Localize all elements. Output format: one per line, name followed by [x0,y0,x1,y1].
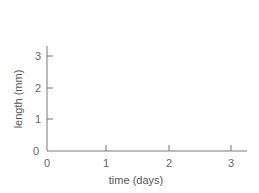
y-tick-label: 0 [33,145,39,157]
y-axis-title: length (mm) [12,70,24,129]
x-axis-title: time (days) [109,174,163,186]
y-tick-label: 2 [35,82,41,94]
x-axis [47,145,247,151]
chart: 3 2 1 0 0 1 2 3 time (days) length (mm) [0,0,259,193]
x-tick-label: 1 [103,157,109,169]
x-tick-label: 2 [166,157,172,169]
x-tick-label: 3 [228,157,234,169]
x-tick-label: 0 [44,157,50,169]
y-tick-label: 3 [35,50,41,62]
y-axis [47,46,53,151]
y-tick-label: 1 [35,113,41,125]
